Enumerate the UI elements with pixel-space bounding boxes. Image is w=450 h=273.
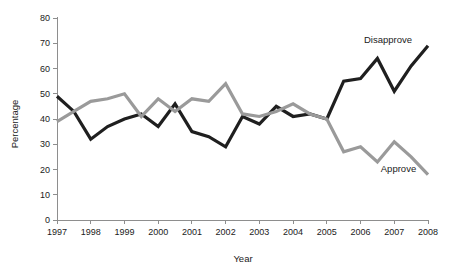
x-tick-label: 2003 bbox=[249, 227, 269, 237]
x-tick-label: 2005 bbox=[317, 227, 337, 237]
x-tick-label: 2000 bbox=[148, 227, 168, 237]
y-axis-tick-labels: 01020304050607080 bbox=[40, 13, 50, 225]
annotation-label-disapprove: Disapprove bbox=[364, 34, 412, 45]
x-tick-label: 1998 bbox=[81, 227, 101, 237]
x-tick-label: 2008 bbox=[418, 227, 438, 237]
x-tick-label: 2002 bbox=[216, 227, 236, 237]
y-tick-label: 0 bbox=[45, 215, 50, 225]
y-tick-label: 20 bbox=[40, 165, 50, 175]
y-tick-label: 80 bbox=[40, 13, 50, 23]
x-axis-title: Year bbox=[233, 253, 252, 264]
y-tick-label: 60 bbox=[40, 64, 50, 74]
data-series-layer bbox=[57, 46, 428, 175]
y-tick-label: 40 bbox=[40, 114, 50, 124]
x-tick-label: 1999 bbox=[114, 227, 134, 237]
y-tick-label: 70 bbox=[40, 38, 50, 48]
line-chart: 01020304050607080 1997199819992000200120… bbox=[0, 0, 450, 273]
chart-canvas: 01020304050607080 1997199819992000200120… bbox=[0, 0, 450, 273]
x-tick-label: 2006 bbox=[351, 227, 371, 237]
y-tick-label: 50 bbox=[40, 89, 50, 99]
y-tick-label: 30 bbox=[40, 139, 50, 149]
annotation-label-approve: Approve bbox=[381, 163, 416, 174]
x-tick-label: 2004 bbox=[283, 227, 303, 237]
x-axis-tick-labels: 1997199819992000200120022003200420052006… bbox=[47, 227, 438, 237]
x-tick-label: 1997 bbox=[47, 227, 67, 237]
y-axis-title: Percentage bbox=[9, 100, 20, 149]
x-tick-label: 2007 bbox=[384, 227, 404, 237]
series-line-approve bbox=[57, 84, 428, 175]
x-tick-label: 2001 bbox=[182, 227, 202, 237]
y-tick-label: 10 bbox=[40, 190, 50, 200]
